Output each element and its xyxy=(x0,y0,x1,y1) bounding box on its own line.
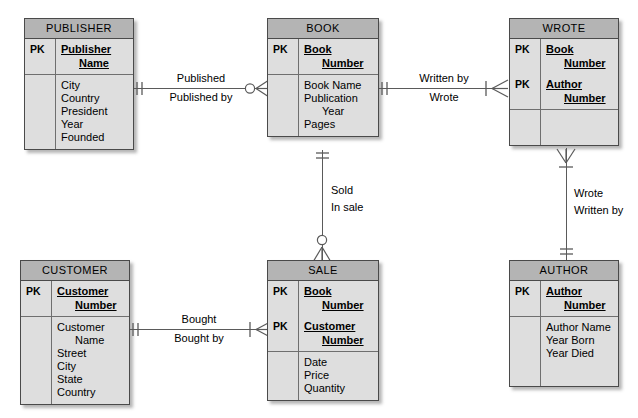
entity-attribute-row: Author Name xyxy=(510,321,618,334)
key-field: Author Number xyxy=(540,284,618,312)
attribute-field: City xyxy=(55,79,133,92)
relationship-label-publisher-book-reverse: Published by xyxy=(152,90,250,105)
pk-marker: PK xyxy=(21,284,51,298)
entity-attribute-section-wrote xyxy=(510,109,618,145)
attribute-field: Country xyxy=(51,386,129,399)
attribute-field: Quantity xyxy=(298,382,378,395)
relationship-label-wrote-author-reverse: Written by xyxy=(574,203,623,218)
entity-attribute-section-sale: Date Price Quantity xyxy=(268,351,378,400)
pk-marker: PK xyxy=(268,284,298,298)
attribute-field: Price xyxy=(298,369,378,382)
pk-marker: PK xyxy=(510,42,540,56)
entity-author[interactable]: AUTHOR PK Author Number Author Name xyxy=(509,260,619,387)
attribute-field: President xyxy=(55,105,133,118)
entity-attribute-row: Publication Year xyxy=(268,92,378,118)
entity-attribute-row: City xyxy=(21,360,129,373)
entity-attribute-section-publisher: City Country President Year Founded xyxy=(25,74,133,149)
entity-body-customer: PK Customer Number Customer Name xyxy=(21,281,129,404)
entity-attribute-row: Book Name xyxy=(268,79,378,92)
cardinality-one-and-only-one-author-top xyxy=(559,245,574,261)
pk-marker: PK xyxy=(510,77,540,91)
pk-marker: PK xyxy=(268,42,298,56)
relationship-label-book-sale-forward: Sold xyxy=(331,183,353,198)
entity-key-row: PK Customer Number xyxy=(21,284,129,312)
key-field: Customer Number xyxy=(298,319,378,347)
entity-key-row: PK Book Number xyxy=(268,42,378,70)
relationship-label-book-wrote-reverse: Wrote xyxy=(402,90,486,105)
entity-attribute-row: Year Founded xyxy=(25,118,133,144)
entity-attribute-row: Quantity xyxy=(268,382,378,395)
key-field: Book Number xyxy=(540,42,618,70)
entity-attribute-row: Year Died xyxy=(510,347,618,360)
pk-marker: PK xyxy=(510,284,540,298)
entity-wrote[interactable]: WROTE PK Book Number PK Author Number xyxy=(509,18,619,146)
entity-title-wrote: WROTE xyxy=(510,19,618,39)
attribute-field: Customer Name xyxy=(51,321,129,347)
entity-attribute-row: City xyxy=(25,79,133,92)
entity-attribute-row: Year Born xyxy=(510,334,618,347)
entity-key-row: PK Book Number xyxy=(268,284,378,312)
entity-key-row: PK Author Number xyxy=(510,284,618,312)
entity-key-section-sale: PK Book Number PK Customer Number xyxy=(268,281,378,351)
er-diagram-canvas: Published Published by Written by Wrote … xyxy=(0,0,638,418)
attribute-field: State xyxy=(51,373,129,386)
entity-key-row: PK Book Number xyxy=(510,42,618,70)
entity-key-row: PK Customer Number xyxy=(268,319,378,347)
relationship-label-customer-sale-reverse: Bought by xyxy=(150,331,248,346)
attribute-field: Pages xyxy=(298,118,378,131)
entity-attribute-section-author: Author Name Year Born Year Died xyxy=(510,316,618,386)
entity-key-row: PK Author Number xyxy=(510,77,618,105)
entity-key-section-publisher: PK Publisher Name xyxy=(25,39,133,74)
attribute-field: Year Born xyxy=(540,334,618,347)
cardinality-one-and-only-one-book-bottom xyxy=(315,150,330,164)
entity-key-section-book: PK Book Number xyxy=(268,39,378,74)
key-field: Book Number xyxy=(298,42,378,70)
attribute-field: Year Founded xyxy=(55,118,133,144)
cardinality-one-or-many-wrote-bottom xyxy=(556,148,576,176)
entity-attribute-section-customer: Customer Name Street City State xyxy=(21,316,129,404)
cardinality-one-and-only-one-customer xyxy=(130,322,144,337)
entity-attribute-row: Customer Name xyxy=(21,321,129,347)
relationship-label-publisher-book-forward: Published xyxy=(160,71,242,86)
entity-key-row: PK Publisher Name xyxy=(25,42,133,70)
entity-body-sale: PK Book Number PK Customer Number xyxy=(268,281,378,400)
entity-title-customer: CUSTOMER xyxy=(21,261,129,281)
entity-attribute-row: Country xyxy=(21,386,129,399)
entity-customer[interactable]: CUSTOMER PK Customer Number Customer Nam… xyxy=(20,260,130,405)
key-field: Book Number xyxy=(298,284,378,312)
attribute-field: City xyxy=(51,360,129,373)
entity-title-book: BOOK xyxy=(268,19,378,39)
entity-attribute-row: Date xyxy=(268,356,378,369)
cardinality-one-or-many-wrote-left xyxy=(484,79,510,98)
entity-attribute-row: Price xyxy=(268,369,378,382)
key-field: Customer Number xyxy=(51,284,129,312)
entity-attribute-row: Pages xyxy=(268,118,378,131)
attribute-field: Author Name xyxy=(540,321,618,334)
relationship-label-book-sale-reverse: In sale xyxy=(331,200,363,215)
attribute-field: Street xyxy=(51,347,129,360)
relationship-label-wrote-author-forward: Wrote xyxy=(574,186,603,201)
cardinality-one-and-only-one-publisher xyxy=(134,81,148,96)
relationship-label-book-wrote-forward: Written by xyxy=(402,71,486,86)
entity-title-sale: SALE xyxy=(268,261,378,281)
entity-attribute-row: Street xyxy=(21,347,129,360)
entity-publisher[interactable]: PUBLISHER PK Publisher Name City xyxy=(24,18,134,150)
entity-book[interactable]: BOOK PK Book Number Book Name xyxy=(267,18,379,137)
entity-body-publisher: PK Publisher Name City Country xyxy=(25,39,133,149)
entity-body-wrote: PK Book Number PK Author Number xyxy=(510,39,618,145)
entity-key-section-author: PK Author Number xyxy=(510,281,618,316)
attribute-field: Publication Year xyxy=(298,92,378,118)
entity-body-book: PK Book Number Book Name Publication xyxy=(268,39,378,136)
pk-marker: PK xyxy=(25,42,55,56)
entity-sale[interactable]: SALE PK Book Number PK Customer Number xyxy=(267,260,379,401)
key-field: Author Number xyxy=(540,77,618,105)
entity-title-author: AUTHOR xyxy=(510,261,618,281)
entity-body-author: PK Author Number Author Name Year Born xyxy=(510,281,618,386)
attribute-field: Book Name xyxy=(298,79,378,92)
entity-key-section-wrote: PK Book Number PK Author Number xyxy=(510,39,618,109)
key-field: Publisher Name xyxy=(55,42,133,70)
entity-attribute-row: Country xyxy=(25,92,133,105)
entity-attribute-section-book: Book Name Publication Year Pages xyxy=(268,74,378,136)
entity-attribute-row: State xyxy=(21,373,129,386)
attribute-field: Date xyxy=(298,356,378,369)
